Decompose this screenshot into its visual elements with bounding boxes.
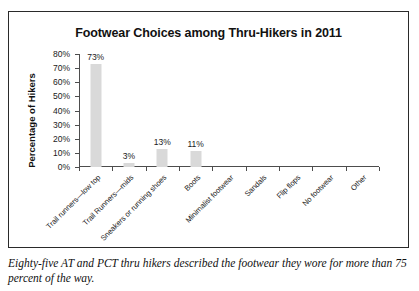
y-tick: 40% <box>75 111 79 112</box>
y-tick-label: 60% <box>53 77 70 87</box>
figure-caption: Eighty-five AT and PCT thru hikers descr… <box>8 256 408 286</box>
x-tick <box>212 167 213 171</box>
y-tick: 50% <box>75 96 79 97</box>
y-axis-title: Percentage of Hikers <box>26 66 37 176</box>
bar-value-label: 3% <box>123 151 135 161</box>
y-tick: 10% <box>75 153 79 154</box>
x-category-label: Sandals <box>243 173 269 199</box>
y-tick: 70% <box>75 68 79 69</box>
y-tick: 20% <box>75 139 79 140</box>
x-tick <box>346 167 347 171</box>
x-category-label: Boots <box>182 173 202 193</box>
chart-title: Footwear Choices among Thru-Hikers in 20… <box>9 26 408 40</box>
x-tick <box>312 167 313 171</box>
plot-area: 80%70%60%50%40%30%20%10%0% 73%3%13%11% T… <box>79 54 379 167</box>
bar-value-label: 11% <box>187 139 203 149</box>
x-category-label: Flip flops <box>275 173 302 200</box>
bar <box>124 163 135 167</box>
bar-value-label: 13% <box>154 137 171 147</box>
x-tick <box>246 167 247 171</box>
x-tick <box>79 167 80 171</box>
x-category-label: Trail runners—low top <box>44 173 102 231</box>
x-tick <box>179 167 180 171</box>
y-tick-label: 80% <box>53 49 70 59</box>
x-tick <box>379 167 380 171</box>
x-category-label: Sneakers or running shoes <box>99 173 169 243</box>
y-tick-label: 40% <box>53 106 70 116</box>
y-tick-label: 30% <box>53 120 70 130</box>
x-tick <box>112 167 113 171</box>
y-tick-label: 50% <box>53 91 70 101</box>
figure-frame: Footwear Choices among Thru-Hikers in 20… <box>8 11 409 248</box>
y-tick-label: 10% <box>53 148 70 158</box>
y-axis-line <box>79 54 80 167</box>
bar <box>157 149 168 167</box>
x-category-label: No footwear <box>300 173 335 208</box>
y-tick-label: 20% <box>53 134 70 144</box>
bar <box>90 64 101 167</box>
y-tick-label: 0% <box>58 162 70 172</box>
y-tick: 30% <box>75 125 79 126</box>
y-tick-label: 70% <box>53 63 70 73</box>
x-tick <box>146 167 147 171</box>
x-tick <box>279 167 280 171</box>
bar <box>190 151 201 167</box>
y-tick: 60% <box>75 82 79 83</box>
y-tick: 80% <box>75 54 79 55</box>
bar-value-label: 73% <box>87 52 104 62</box>
x-category-label: Other <box>349 173 369 193</box>
